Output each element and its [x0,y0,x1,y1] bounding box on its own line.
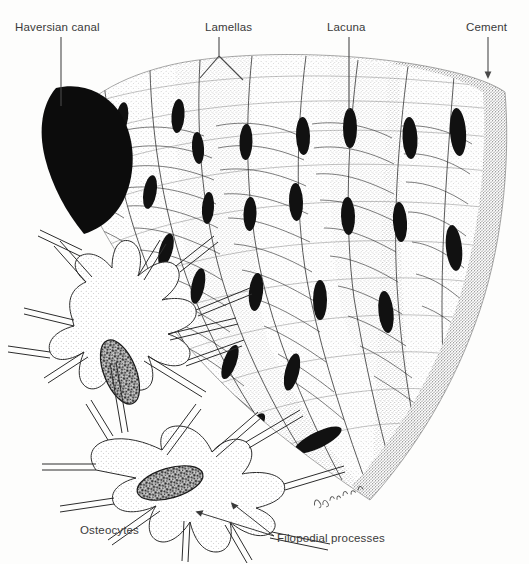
osteon-figure [0,0,529,564]
label-cement: Cement [466,21,507,34]
label-lacuna: Lacuna [327,21,366,34]
label-osteocytes: Osteocytes [80,524,139,537]
label-filopodial-processes: Filopodial processes [277,532,385,545]
label-haversian-canal: Haversian canal [15,21,100,34]
label-lamellas: Lamellas [205,21,252,34]
